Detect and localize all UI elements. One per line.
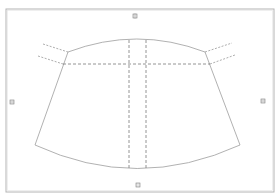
marker-right-handle[interactable]: [261, 99, 265, 103]
extension-upper-left: [43, 44, 68, 52]
diagram-canvas: [0, 0, 276, 195]
extension-upper-right: [205, 43, 232, 52]
pattern-diagram: [0, 0, 276, 195]
extension-lower-left: [38, 56, 63, 64]
marker-left-handle[interactable]: [10, 100, 14, 104]
extension-lower-right: [210, 55, 235, 64]
frame-border: [6, 9, 274, 192]
marker-top-handle[interactable]: [133, 13, 137, 19]
pattern-piece-outline: [35, 39, 240, 169]
marker-bottom-handle[interactable]: [136, 183, 140, 187]
frame-border-inner: [8, 11, 273, 191]
